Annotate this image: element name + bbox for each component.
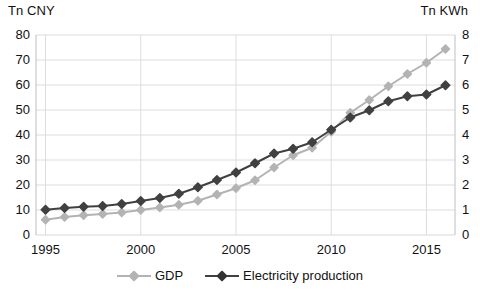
data-point-marker: [97, 201, 108, 212]
data-point-marker: [421, 89, 432, 100]
data-point-marker: [59, 212, 69, 222]
right-axis-tick-1: 1: [462, 203, 469, 216]
data-point-marker: [135, 196, 146, 207]
data-point-marker: [288, 143, 299, 154]
gdp-line-swatch-icon: [117, 270, 151, 282]
data-point-marker: [136, 205, 146, 215]
data-point-marker: [250, 158, 261, 169]
left-axis-tick-80: 80: [16, 28, 30, 41]
data-point-marker: [155, 202, 165, 212]
electricity-line-swatch-icon: [205, 270, 239, 282]
data-point-marker: [193, 182, 204, 193]
x-axis-tick-2010: 2010: [317, 242, 346, 257]
x-axis-tick-2005: 2005: [222, 242, 251, 257]
right-axis-tick-8: 8: [462, 28, 469, 41]
chart-legend: GDP Electricity production: [0, 268, 480, 283]
data-point-marker: [307, 137, 318, 148]
right-axis-tick-0: 0: [462, 228, 469, 241]
data-point-marker: [40, 215, 50, 225]
data-point-marker: [59, 203, 70, 214]
data-point-marker: [269, 148, 280, 159]
data-point-marker: [173, 188, 184, 199]
data-point-marker: [116, 199, 127, 210]
data-point-marker: [402, 69, 412, 79]
left-axis-tick-70: 70: [16, 53, 30, 66]
right-axis-tick-3: 3: [462, 153, 469, 166]
data-point-marker: [78, 201, 89, 212]
left-axis-tick-30: 30: [16, 153, 30, 166]
x-axis-tick-labels: 19952000200520102015: [0, 242, 480, 262]
left-axis-tick-40: 40: [16, 128, 30, 141]
series-line-gdp: [46, 49, 446, 220]
data-point-marker: [440, 80, 451, 91]
left-axis-tick-50: 50: [16, 103, 30, 116]
data-point-marker: [383, 96, 394, 107]
data-point-marker: [212, 175, 223, 186]
x-axis-tick-1995: 1995: [31, 242, 60, 257]
right-axis-tick-2: 2: [462, 178, 469, 191]
x-axis-tick-2000: 2000: [126, 242, 155, 257]
left-axis-tick-60: 60: [16, 78, 30, 91]
series-lines: [36, 35, 455, 235]
legend-item-gdp: GDP: [117, 268, 183, 283]
data-point-marker: [193, 196, 203, 206]
legend-label-electricity-production: Electricity production: [243, 268, 363, 283]
left-axis-tick-0: 0: [23, 228, 30, 241]
right-axis-tick-4: 4: [462, 128, 469, 141]
left-axis-tick-10: 10: [16, 203, 30, 216]
data-point-marker: [402, 91, 413, 102]
right-axis-tick-7: 7: [462, 53, 469, 66]
legend-label-gdp: GDP: [155, 268, 183, 283]
data-point-marker: [231, 183, 241, 193]
right-axis-tick-6: 6: [462, 78, 469, 91]
left-axis-tick-20: 20: [16, 178, 30, 191]
series-line-electricity-production: [46, 85, 446, 210]
data-point-marker: [364, 105, 375, 116]
data-point-marker: [212, 189, 222, 199]
data-point-marker: [40, 204, 51, 215]
data-point-marker: [231, 167, 242, 178]
legend-item-electricity-production: Electricity production: [205, 268, 363, 283]
data-point-marker: [154, 193, 165, 204]
chart-container: Tn CNY Tn KWh 01020304050607080 01234567…: [0, 0, 480, 294]
data-point-marker: [326, 124, 337, 135]
data-point-marker: [174, 200, 184, 210]
plot-area: [36, 35, 455, 235]
right-axis-title: Tn KWh: [420, 3, 468, 18]
right-axis-tick-5: 5: [462, 103, 469, 116]
x-axis-tick-2015: 2015: [412, 242, 441, 257]
